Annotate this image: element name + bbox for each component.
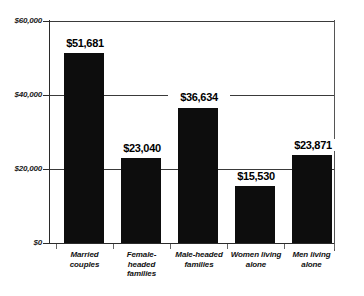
gridline-60000 <box>49 21 335 22</box>
x-axis-line <box>49 243 335 244</box>
bar-chart: $60,000 $40,000 $20,000 $0 $51,681 $23,0… <box>0 0 364 296</box>
xtick-mark-2 <box>170 244 171 249</box>
bar-value-men-living-alone: $23,871 <box>282 139 344 151</box>
xtick-mark-5 <box>334 244 335 249</box>
xtick-mark-4 <box>284 244 285 249</box>
bar-female-headed[interactable] <box>121 158 161 243</box>
bar-men-living-alone[interactable] <box>292 155 332 243</box>
category-label-women-living-alone: Women living alone <box>225 250 287 269</box>
ytick-label-40000: $40,000 <box>2 90 42 99</box>
category-label-female-headed: Female- headed families <box>113 250 170 279</box>
bar-male-headed[interactable] <box>178 108 218 244</box>
xtick-mark-3 <box>227 244 228 249</box>
bar-value-women-living-alone: $15,530 <box>225 170 287 182</box>
category-label-men-living-alone: Men living alone <box>284 250 339 269</box>
xtick-mark-1 <box>113 244 114 249</box>
ytick-label-60000: $60,000 <box>2 16 42 25</box>
plot-right-border <box>334 20 335 251</box>
bar-married-couples[interactable] <box>64 53 104 243</box>
bar-value-married-couples: $51,681 <box>54 37 116 49</box>
ytick-label-20000: $20,000 <box>2 164 42 173</box>
ytick-label-0: $0 <box>2 238 42 247</box>
xtick-mark-0 <box>56 244 57 249</box>
y-axis-line <box>49 20 50 244</box>
category-label-married-couples: Married couples <box>56 250 113 269</box>
category-label-male-headed: Male-headed families <box>168 250 230 269</box>
bar-women-living-alone[interactable] <box>235 186 275 244</box>
bar-value-female-headed: $23,040 <box>111 142 173 154</box>
bar-value-male-headed: $36,634 <box>168 91 230 103</box>
